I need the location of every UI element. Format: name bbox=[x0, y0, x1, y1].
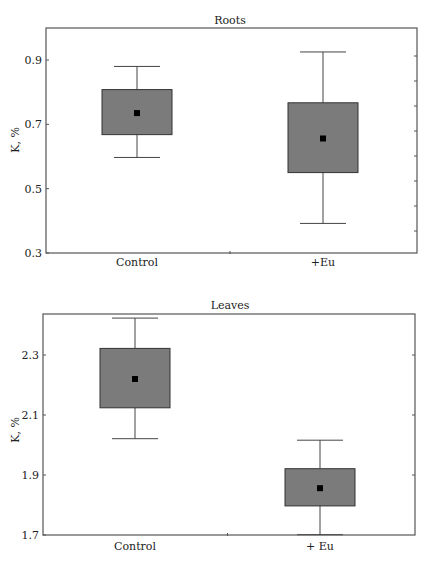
roots-mean-marker bbox=[134, 110, 140, 116]
leaves-panel: Leaves K, % 1.71.92.12.3Control+ Eu bbox=[9, 299, 415, 553]
roots-y-tick-label: 0.3 bbox=[25, 247, 43, 260]
roots-title: Roots bbox=[214, 14, 246, 27]
leaves-plot-frame bbox=[43, 314, 415, 535]
roots-x-category-label: +Eu bbox=[311, 256, 335, 269]
roots-mean-marker bbox=[320, 135, 326, 141]
leaves-y-tick-label: 2.1 bbox=[22, 409, 40, 422]
leaves-y-tick-label: 2.3 bbox=[22, 349, 40, 362]
leaves-title: Leaves bbox=[211, 299, 250, 312]
leaves-mean-marker bbox=[132, 376, 138, 382]
roots-y-tick-label: 0.7 bbox=[25, 118, 43, 131]
figure: Roots K, % 0.30.50.70.9Control+Eu Leaves… bbox=[0, 0, 432, 565]
roots-plot-frame bbox=[46, 28, 417, 253]
roots-y-tick-label: 0.5 bbox=[25, 183, 43, 196]
roots-y-axis-label: K, % bbox=[9, 127, 22, 153]
leaves-y-axis-label: K, % bbox=[9, 417, 22, 443]
roots-y-tick-label: 0.9 bbox=[25, 54, 43, 67]
roots-panel: Roots K, % 0.30.50.70.9Control+Eu bbox=[9, 14, 417, 269]
leaves-x-category-label: + Eu bbox=[306, 540, 334, 553]
leaves-x-category-label: Control bbox=[114, 540, 156, 553]
leaves-y-tick-label: 1.9 bbox=[22, 469, 40, 482]
roots-x-category-label: Control bbox=[116, 256, 158, 269]
leaves-mean-marker bbox=[317, 485, 323, 491]
leaves-y-tick-label: 1.7 bbox=[22, 529, 40, 542]
